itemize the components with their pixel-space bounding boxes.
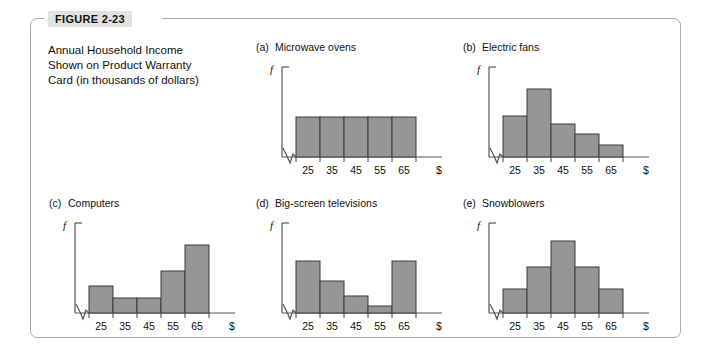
x-tick-label-d-35: 35 xyxy=(321,320,343,332)
x-tick-label-b-45: 45 xyxy=(552,164,574,176)
chart-name-c: Computers xyxy=(68,197,119,209)
x-tick-label-a-25: 25 xyxy=(297,164,319,176)
x-axis-label-d: $ xyxy=(436,320,442,332)
y-axis-label-d: f xyxy=(270,219,273,231)
histogram-svg-e xyxy=(463,213,668,335)
chart-name-a: Microwave ovens xyxy=(275,41,356,53)
chart-plot-c: f2535455565$ xyxy=(49,213,254,339)
x-tick-label-b-25: 25 xyxy=(504,164,526,176)
x-tick-label-d-55: 55 xyxy=(369,320,391,332)
y-axis-label-e: f xyxy=(477,219,480,231)
x-tick-label-c-35: 35 xyxy=(114,320,136,332)
bar-c-55 xyxy=(161,271,185,313)
bar-a-65 xyxy=(392,117,416,157)
chart-label-b: (b) xyxy=(463,41,482,53)
bar-e-45 xyxy=(551,241,575,313)
chart-title-c: (c)Computers xyxy=(49,197,119,209)
bar-d-55 xyxy=(368,306,392,313)
histogram-svg-d xyxy=(256,213,461,335)
histogram-svg-b xyxy=(463,57,668,179)
chart-plot-b: f2535455565$ xyxy=(463,57,668,183)
chart-plot-a: f2535455565$ xyxy=(256,57,461,183)
x-tick-label-e-55: 55 xyxy=(576,320,598,332)
caption-line-2: Shown on Product Warranty xyxy=(48,58,238,73)
x-axis-label-b: $ xyxy=(643,164,649,176)
x-tick-label-b-55: 55 xyxy=(576,164,598,176)
y-axis-label-c: f xyxy=(63,219,66,231)
chart-title-a: (a)Microwave ovens xyxy=(256,41,356,53)
x-tick-label-a-45: 45 xyxy=(345,164,367,176)
chart-panel-snowblowers: (e)Snowblowers f2535455565$ xyxy=(463,197,668,337)
bar-e-55 xyxy=(575,267,599,313)
chart-panel-electric-fans: (b)Electric fans f2535455565$ xyxy=(463,41,668,181)
y-axis-label-b: f xyxy=(477,63,480,75)
bar-a-25 xyxy=(296,117,320,157)
x-tick-label-b-35: 35 xyxy=(528,164,550,176)
figure-caption: Annual Household Income Shown on Product… xyxy=(48,43,238,88)
x-axis-label-a: $ xyxy=(436,164,442,176)
chart-panel-computers: (c)Computers f2535455565$ xyxy=(49,197,254,337)
bar-b-25 xyxy=(503,116,527,157)
chart-label-c: (c) xyxy=(49,197,68,209)
y-axis-label-a: f xyxy=(270,63,273,75)
chart-name-e: Snowblowers xyxy=(482,197,544,209)
bar-a-45 xyxy=(344,117,368,157)
x-tick-label-a-65: 65 xyxy=(393,164,415,176)
bar-c-65 xyxy=(185,245,209,313)
bar-d-65 xyxy=(392,261,416,313)
x-tick-label-e-25: 25 xyxy=(504,320,526,332)
bar-d-25 xyxy=(296,261,320,313)
x-tick-label-d-25: 25 xyxy=(297,320,319,332)
x-tick-label-c-45: 45 xyxy=(138,320,160,332)
bar-b-35 xyxy=(527,89,551,157)
chart-plot-e: f2535455565$ xyxy=(463,213,668,339)
chart-panel-microwave-ovens: (a)Microwave ovens f2535455565$ xyxy=(256,41,461,181)
x-tick-label-e-35: 35 xyxy=(528,320,550,332)
x-tick-label-c-65: 65 xyxy=(186,320,208,332)
chart-label-e: (e) xyxy=(463,197,482,209)
x-tick-label-e-65: 65 xyxy=(600,320,622,332)
x-tick-label-b-65: 65 xyxy=(600,164,622,176)
bar-e-25 xyxy=(503,289,527,313)
caption-line-1: Annual Household Income xyxy=(48,43,238,58)
bar-e-65 xyxy=(599,289,623,313)
chart-name-d: Big-screen televisions xyxy=(275,197,377,209)
chart-name-b: Electric fans xyxy=(482,41,539,53)
x-tick-label-e-45: 45 xyxy=(552,320,574,332)
chart-title-b: (b)Electric fans xyxy=(463,41,539,53)
chart-panel-big-screen-televisions: (d)Big-screen televisions f2535455565$ xyxy=(256,197,461,337)
bar-d-35 xyxy=(320,281,344,313)
bar-c-35 xyxy=(113,298,137,313)
x-tick-label-d-65: 65 xyxy=(393,320,415,332)
x-tick-label-c-25: 25 xyxy=(90,320,112,332)
chart-title-e: (e)Snowblowers xyxy=(463,197,544,209)
bar-d-45 xyxy=(344,296,368,313)
x-tick-label-c-55: 55 xyxy=(162,320,184,332)
chart-title-d: (d)Big-screen televisions xyxy=(256,197,377,209)
chart-plot-d: f2535455565$ xyxy=(256,213,461,339)
x-axis-label-e: $ xyxy=(643,320,649,332)
histogram-svg-a xyxy=(256,57,461,179)
chart-label-a: (a) xyxy=(256,41,275,53)
bar-b-55 xyxy=(575,134,599,157)
x-tick-label-a-55: 55 xyxy=(369,164,391,176)
bar-c-45 xyxy=(137,298,161,313)
figure-frame: FIGURE 2-23 Annual Household Income Show… xyxy=(30,18,681,338)
x-tick-label-a-35: 35 xyxy=(321,164,343,176)
histogram-svg-c xyxy=(49,213,254,335)
bar-b-65 xyxy=(599,145,623,157)
bar-a-55 xyxy=(368,117,392,157)
chart-label-d: (d) xyxy=(256,197,275,209)
bar-e-35 xyxy=(527,267,551,313)
bar-b-45 xyxy=(551,124,575,157)
caption-line-3: Card (in thousands of dollars) xyxy=(48,73,238,88)
figure-tag: FIGURE 2-23 xyxy=(48,11,132,27)
bar-a-35 xyxy=(320,117,344,157)
bar-c-25 xyxy=(89,286,113,313)
x-tick-label-d-45: 45 xyxy=(345,320,367,332)
x-axis-label-c: $ xyxy=(229,320,235,332)
